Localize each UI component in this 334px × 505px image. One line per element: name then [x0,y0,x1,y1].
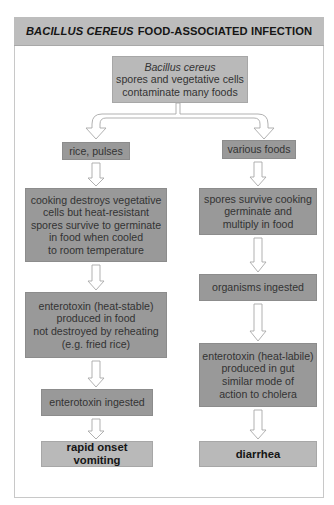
arrow-down-icon [250,410,266,439]
box-line: in food when cooled [49,231,143,244]
box-line: cells but heat-resistant [43,206,149,219]
arrow-down-icon [250,304,266,341]
top-box-contamination: Bacillus cereus spores and vegetative ce… [112,56,248,103]
right-step1-box: spores survive cooking germinate and mul… [199,188,317,235]
left-step2-box: enterotoxin (heat-stable) produced in fo… [25,292,167,358]
box-line: action to cholera [219,388,297,401]
arrow-down-icon [88,361,104,387]
box-line: germinate and [224,205,292,218]
box-line: to room temperature [48,244,144,257]
box-line: cooking destroys vegetative [31,194,162,207]
box-line: multiply in food [223,218,294,231]
box-line: produced in food [57,312,136,325]
arrow-down-icon [88,163,104,186]
arrow-down-icon [250,162,266,186]
left-step3-box: enterotoxin ingested [41,389,153,416]
right-food-box: various foods [222,140,296,159]
left-food-label: rice, pulses [69,145,123,158]
top-box-line: spores and vegetative cells [116,73,244,86]
top-box-line: contaminate many foods [122,86,237,99]
box-line: enterotoxin (heat-stable) [39,300,154,313]
right-food-label: various foods [227,143,290,156]
right-step3-box: enterotoxin (heat-labile) produced in gu… [199,343,317,407]
box-line: organisms ingested [212,281,304,294]
box-line: enterotoxin ingested [49,396,144,409]
outcome-label: diarrhea [236,448,281,461]
organism-name: Bacillus cereus [144,61,215,74]
box-line: (e.g. fried rice) [62,338,130,351]
arrow-down-icon [88,419,104,439]
box-line: not destroyed by reheating [33,325,158,338]
split-arrow-icon [86,103,274,139]
box-line: similar mode of [222,375,294,388]
outcome-label: rapid onset vomiting [42,441,152,466]
arrow-down-icon [88,265,104,290]
box-line: spores survive to germinate [31,219,161,232]
box-line: spores survive cooking [204,193,312,206]
box-line: enterotoxin (heat-labile) [202,350,313,363]
arrow-down-icon [250,238,266,272]
box-line: produced in gut [221,362,294,375]
left-outcome-box: rapid onset vomiting [41,441,153,467]
left-step1-box: cooking destroys vegetative cells but he… [25,188,167,262]
right-outcome-box: diarrhea [199,441,317,467]
right-step2-box: organisms ingested [199,274,317,301]
left-food-box: rice, pulses [62,142,130,160]
